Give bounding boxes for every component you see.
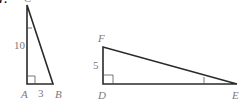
vertex-label-a: A (20, 88, 28, 100)
vertex-label-d: D (97, 89, 106, 101)
triangle-fde-edges (103, 47, 237, 84)
problem-number: 7. (0, 0, 7, 5)
side-label-ac: 10 (14, 39, 26, 51)
side-label-df: 5 (93, 59, 99, 71)
triangle-cab: C 10 A 3 B (14, 0, 62, 100)
triangle-fde: F 5 D E (93, 32, 239, 101)
diagram-canvas: 7. C 10 A 3 B F 5 D E (0, 0, 242, 104)
right-angle-marker-d (103, 75, 113, 84)
vertex-label-f: F (97, 32, 105, 44)
vertex-label-c: C (24, 0, 32, 4)
vertex-label-b: B (55, 88, 62, 100)
triangle-cab-edges (27, 5, 53, 84)
right-angle-marker-a (27, 76, 35, 84)
vertex-label-e: E (231, 89, 239, 101)
side-label-ab: 3 (38, 87, 44, 99)
